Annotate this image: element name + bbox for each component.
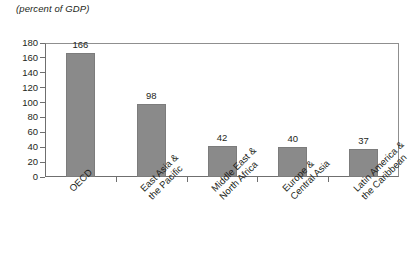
x-axis-tick (116, 177, 117, 182)
y-axis-tick (40, 43, 45, 44)
y-axis-tick-label: 140 (4, 68, 38, 78)
y-axis-tick-label: 120 (4, 83, 38, 93)
y-axis-tick-label: 100 (4, 98, 38, 108)
y-axis-tick-label: 0 (4, 172, 38, 182)
bar-chart: (percent of GDP) 18016014012010080604020… (0, 0, 413, 261)
bar (66, 53, 95, 177)
x-axis-tick (328, 177, 329, 182)
bar-value-label: 37 (339, 136, 389, 146)
y-axis-tick (40, 72, 45, 73)
y-axis-tick (40, 177, 45, 178)
y-axis-tick (40, 132, 45, 133)
y-axis-tick (40, 102, 45, 103)
y-axis-tick-label: 40 (4, 142, 38, 152)
y-axis-tick-label: 160 (4, 53, 38, 63)
bar-value-label: 40 (268, 134, 318, 144)
y-axis-tick (40, 117, 45, 118)
y-axis-tick-label: 60 (4, 127, 38, 137)
y-axis-tick (40, 147, 45, 148)
y-axis-tick (40, 57, 45, 58)
x-axis-tick (187, 177, 188, 182)
y-axis-tick-label: 80 (4, 112, 38, 122)
bar-value-label: 166 (55, 40, 105, 50)
y-axis-tick (40, 87, 45, 88)
x-axis-tick (257, 177, 258, 182)
bar-value-label: 42 (197, 133, 247, 143)
bar-value-label: 98 (126, 91, 176, 101)
y-axis-tick-label: 20 (4, 157, 38, 167)
y-axis-tick (40, 162, 45, 163)
chart-subtitle: (percent of GDP) (16, 3, 89, 14)
y-axis-tick-label: 180 (4, 38, 38, 48)
